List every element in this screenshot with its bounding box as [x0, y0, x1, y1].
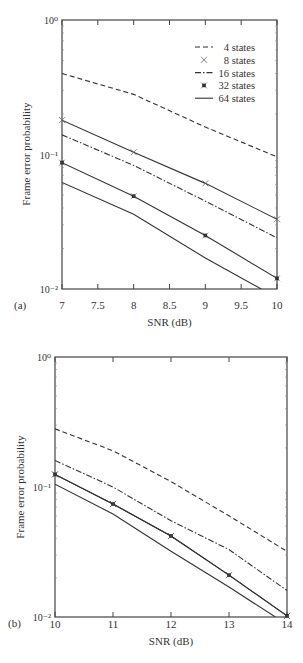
x-tick-label: 13 — [224, 618, 236, 630]
legend-entry-label: 16 states — [219, 68, 255, 79]
y-tick-label: 10⁰ — [44, 15, 58, 26]
y-tick-label: 10⁻² — [33, 612, 51, 623]
x-axis-label: SNR (dB) — [147, 316, 192, 329]
y-tick-label: 10⁻¹ — [33, 482, 51, 493]
x-tick-label: 8 — [131, 299, 137, 311]
series-line — [62, 163, 277, 279]
y-axis-label: Frame error probability — [14, 435, 26, 539]
x-tick-label: 9.5 — [234, 299, 248, 311]
x-axis-label: SNR (dB) — [149, 635, 194, 648]
series-line — [55, 474, 287, 615]
legend-entry-label: 8 states — [224, 55, 255, 66]
x-tick-label: 8.5 — [163, 299, 177, 311]
panel-label: (a) — [14, 299, 27, 312]
series-line — [62, 120, 277, 219]
marker-x-icon — [131, 149, 137, 155]
panel-label: (b) — [8, 617, 21, 630]
x-tick-label: 14 — [282, 618, 294, 630]
marker-x-icon — [202, 180, 208, 186]
y-axis-label: Frame error probability — [20, 102, 32, 206]
y-tick-label: 10⁻¹ — [40, 150, 58, 161]
y-tick-label: 10⁻² — [40, 284, 58, 295]
legend-marker-x-icon — [201, 57, 207, 63]
x-tick-label: 12 — [166, 618, 177, 630]
x-tick-label: 11 — [108, 618, 119, 630]
series-line — [62, 135, 277, 238]
x-tick-label: 7 — [59, 299, 65, 311]
series-line — [62, 182, 261, 289]
x-tick-label: 9 — [203, 299, 209, 311]
figure: 77.588.599.51010⁰10⁻¹10⁻²SNR (dB)Frame e… — [0, 0, 303, 663]
series-line — [55, 460, 287, 590]
plot-frame — [55, 357, 287, 617]
legend-entry-label: 64 states — [219, 93, 255, 104]
y-tick-label: 10⁰ — [37, 352, 51, 363]
legend-entry-label: 4 states — [224, 42, 255, 53]
legend: 4 states8 states16 states32 states64 sta… — [195, 42, 255, 104]
x-tick-label: 7.5 — [91, 299, 105, 311]
x-tick-label: 10 — [50, 618, 62, 630]
legend-entry-label: 32 states — [219, 80, 255, 91]
series-line — [55, 474, 287, 615]
x-tick-label: 10 — [272, 299, 284, 311]
series-line — [55, 429, 287, 551]
chart-panel-b: 101112131410⁰10⁻¹10⁻²SNR (dB)Frame error… — [8, 352, 293, 648]
chart-panel-a: 77.588.599.51010⁰10⁻¹10⁻²SNR (dB)Frame e… — [14, 15, 283, 329]
series-line — [55, 484, 275, 617]
